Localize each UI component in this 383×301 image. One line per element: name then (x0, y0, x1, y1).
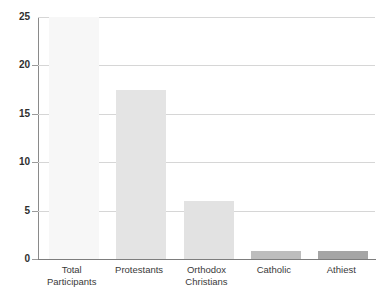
bar-orthodox-christians[interactable] (184, 201, 234, 259)
x-axis-category-labels: TotalParticipantsProtestantsOrthodoxChri… (38, 264, 375, 301)
x-axis-label-line: Orthodox (173, 264, 240, 276)
x-axis-label-total-participants: TotalParticipants (38, 264, 105, 288)
x-axis-label-athiest: Athiest (308, 264, 375, 276)
y-tick-label-5: 5 (0, 206, 30, 216)
bar-protestants[interactable] (116, 90, 166, 259)
y-tick-mark (32, 65, 38, 66)
y-tick-label-20: 20 (0, 60, 30, 70)
x-axis-label-line: Protestants (105, 264, 172, 276)
x-axis-label-line: Total (38, 264, 105, 276)
x-axis-label-protestants: Protestants (105, 264, 172, 276)
y-tick-label-15: 15 (0, 109, 30, 119)
y-tick-mark (32, 211, 38, 212)
x-axis-label-orthodox-christians: OrthodoxChristians (173, 264, 240, 288)
y-tick-label-25: 25 (0, 12, 30, 22)
y-tick-mark (32, 259, 38, 260)
bar-chart: 0 5 10 15 20 25 TotalParticipantsProtest… (0, 0, 383, 301)
y-tick-mark (32, 114, 38, 115)
x-axis-label-line: Catholic (240, 264, 307, 276)
x-axis-label-line: Christians (173, 276, 240, 288)
bar-athiest[interactable] (318, 251, 368, 259)
x-axis-label-line: Participants (38, 276, 105, 288)
y-tick-mark (32, 162, 38, 163)
y-tick-label-10: 10 (0, 157, 30, 167)
plot-area (38, 17, 375, 259)
bar-catholic[interactable] (251, 251, 301, 259)
x-axis-label-catholic: Catholic (240, 264, 307, 276)
y-tick-label-0: 0 (0, 254, 30, 264)
gridline (38, 259, 375, 260)
x-axis-label-line: Athiest (308, 264, 375, 276)
bar-total-participants[interactable] (49, 17, 99, 259)
y-axis-tick-labels: 0 5 10 15 20 25 (0, 17, 32, 259)
